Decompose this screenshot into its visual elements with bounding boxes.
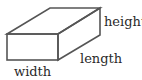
top-face [7,8,100,34]
prism-diagram: height length width [0,0,142,80]
height-label: height [104,14,142,29]
length-label: length [80,51,123,66]
front-face [7,34,58,60]
width-label: width [14,64,52,79]
